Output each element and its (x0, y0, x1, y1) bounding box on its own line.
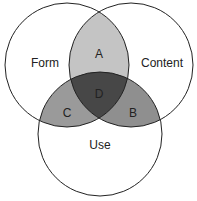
label-content: Content (141, 56, 184, 70)
venn-diagram: Form Content Use A B C D (0, 0, 197, 201)
label-b: B (129, 106, 137, 120)
label-use: Use (89, 138, 111, 152)
label-a: A (95, 47, 103, 61)
label-d: D (95, 87, 104, 101)
label-form: Form (31, 56, 59, 70)
label-c: C (63, 106, 72, 120)
